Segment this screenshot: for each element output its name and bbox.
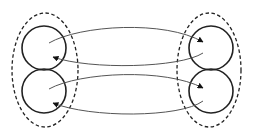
node-left-bottom <box>22 69 66 113</box>
edge-right-top-to-left-top <box>53 53 203 66</box>
node-right-bottom <box>189 69 233 113</box>
edge-left-bottom-to-right-bottom <box>49 75 203 89</box>
node-right-top <box>189 26 233 70</box>
diagram-canvas <box>0 0 253 136</box>
edge-right-bottom-to-left-bottom <box>53 101 203 114</box>
edge-left-top-to-right-top <box>49 27 203 43</box>
node-left-top <box>22 26 66 70</box>
